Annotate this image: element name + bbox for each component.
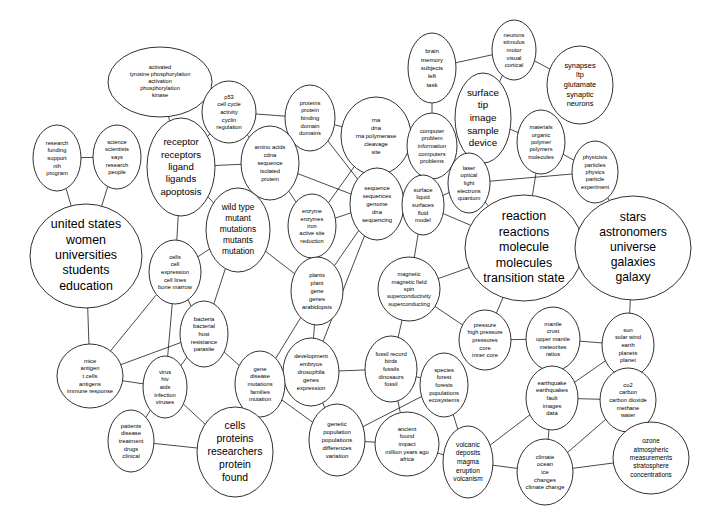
node-label-line: left — [428, 72, 436, 79]
node-label-line: molecule — [499, 240, 549, 254]
graph-node-science-scientists[interactable]: sciencescientistssaysresearchpeople — [93, 125, 141, 189]
graph-node-enzyme-enzymes-iron[interactable]: enzymeenzymesironactive sitereduction — [288, 194, 336, 258]
node-label-line: nih — [53, 162, 61, 168]
node-label-line: united states — [51, 217, 121, 231]
graph-node-mantle-crust[interactable]: mantlecrustupper mantlemeteoritesratios — [526, 307, 580, 371]
node-label-line: protein — [219, 459, 251, 470]
node-label-line: upper mantle — [536, 336, 570, 342]
graph-node-magnetic-field-spin[interactable]: magneticmagnetic fieldspinsuperconductiv… — [378, 257, 440, 321]
node-label-line: phosphorylation — [140, 86, 180, 92]
node-label-line: viruses — [156, 399, 174, 405]
graph-node-patients-disease[interactable]: patientsdiseasetreatmentdrugsclinical — [108, 410, 154, 472]
graph-edge — [335, 213, 351, 218]
node-label-line: genetic — [327, 421, 346, 427]
node-label-line: sequences — [363, 193, 392, 199]
graph-edge — [181, 357, 187, 365]
node-label-line: core — [479, 344, 490, 350]
node-label-line: arabidopsis — [302, 303, 332, 309]
node-label-line: reaction — [502, 209, 547, 223]
node-layer: activatedtyrosine phosphorylationactivat… — [30, 20, 691, 505]
graph-node-fossil-record-birds[interactable]: fossil recordbirdsfossilsdinosaursfossil — [365, 336, 417, 402]
node-label-line: galaxies — [611, 255, 656, 269]
graph-edge — [224, 352, 239, 366]
node-label-line: magma — [457, 458, 479, 466]
graph-node-sun-solar-wind[interactable]: sunsolar windearthplanetsplanet — [602, 313, 654, 377]
graph-node-surface-tip-image[interactable]: surfacetipimagesampledevice — [455, 73, 511, 163]
graph-edge — [169, 117, 170, 121]
node-label-line: crust — [547, 328, 560, 334]
graph-node-brain-memory[interactable]: brainmemorysubjectslefttask — [408, 33, 456, 103]
node-label-line: carbon — [619, 389, 637, 395]
graph-node-receptor-ligand[interactable]: receptorreceptorsligandligandsapoptosis — [147, 118, 215, 216]
node-label-line: sample — [467, 124, 499, 135]
graph-node-computer-problem[interactable]: computerprobleminformationcomputersprobl… — [407, 113, 457, 179]
graph-node-cells-cell-expression[interactable]: cellscellexpressioncell linesbone marrow — [149, 240, 201, 304]
node-label-line: disease — [121, 430, 141, 436]
node-label-line: birds — [385, 358, 398, 364]
graph-node-sequence-genome[interactable]: sequencesequencesgenomednasequencing — [350, 168, 404, 240]
node-label-line: dna — [371, 124, 382, 130]
node-label-line: cells — [225, 419, 246, 430]
node-label-line: forest — [437, 374, 452, 380]
graph-node-research-funding[interactable]: researchfundingsupportnihprogram — [33, 125, 81, 191]
node-label-line: students — [63, 264, 110, 278]
node-label-line: enzyme — [302, 208, 322, 214]
graph-edge — [532, 173, 536, 195]
graph-node-climate-ocean-ice[interactable]: climateoceanicechangesclimate change — [517, 439, 573, 505]
node-label-line: receptors — [161, 148, 201, 159]
graph-node-pressure-core[interactable]: pressurehigh pressurepressurescoreinner … — [459, 310, 511, 370]
graph-node-volcanic-magma[interactable]: volcanicdepositsmagmaeruptionvolcanism — [443, 426, 493, 498]
graph-edge — [198, 249, 210, 257]
graph-node-physicists-particles[interactable]: physicistsparticlesphysicsparticleexperi… — [572, 141, 618, 203]
graph-node-surface-liquid[interactable]: surfaceliquidsurfacesfluidmodel — [402, 175, 444, 235]
graph-node-mice-antigen[interactable]: miceantigent cellsantigensimmune respons… — [57, 344, 123, 408]
graph-node-reaction-molecule[interactable]: reactionreactionsmoleculemoleculestransi… — [465, 195, 583, 301]
graph-node-genetic-population[interactable]: geneticpopulationpopulationsdifferencesv… — [309, 404, 365, 476]
node-label-line: motor — [507, 47, 522, 53]
graph-edge — [208, 134, 210, 137]
graph-node-ozone-atmospheric[interactable]: ozoneatmosphericmeasurementsstratosphere… — [613, 422, 689, 494]
graph-node-earthquake-fault[interactable]: earthquakeearthquakesfaultimagesdata — [526, 366, 578, 430]
node-label-line: says — [111, 154, 123, 160]
node-label-line: found — [222, 472, 248, 483]
graph-node-plants-plant-gene[interactable]: plantsplantgenegenesarabidopsis — [291, 257, 343, 325]
graph-node-species-forest[interactable]: speciesforestforestspopulationsecosystem… — [420, 353, 468, 417]
graph-edge — [496, 298, 503, 314]
graph-node-ancient-found-impact[interactable]: ancientfoundimpactmillion years agoafric… — [375, 412, 439, 476]
graph-node-wild-type-mutant[interactable]: wild typemutantmutationsmutantsmutation — [206, 188, 270, 272]
graph-node-neurons-stimulus[interactable]: neuronsstimulusmotorvisualcortical — [492, 20, 536, 80]
node-label-line: cyclin — [222, 116, 237, 122]
graph-edge — [314, 325, 315, 338]
node-label-line: measurements — [630, 454, 672, 461]
node-label-line: neurons — [567, 99, 594, 108]
graph-node-gene-disease-mutations[interactable]: genediseasemutationsfamiliesmutation — [235, 351, 285, 417]
graph-node-laser-optical-light[interactable]: laseropticallightelectronsquantum — [448, 153, 490, 213]
node-label-line: planets — [619, 349, 638, 355]
graph-node-virus-hiv-aids[interactable]: virushivaidsinfectionviruses — [143, 356, 187, 418]
node-label-line: eruption — [456, 466, 480, 474]
node-label-line: drosophila — [297, 369, 325, 375]
graph-node-rna-dna-polymerase[interactable]: rnadnarna polymerasecleavagesite — [341, 97, 411, 175]
graph-edge — [575, 361, 606, 382]
node-label: sequencesequencesgenomednasequencing — [362, 185, 392, 222]
graph-node-p53-cell-cycle[interactable]: p53cell cycleactivitycyclinregulation — [202, 81, 256, 143]
node-label-line: wild type — [221, 203, 255, 213]
graph-node-bacteria-host[interactable]: bacteriabacterialhostresistanceparasite — [180, 301, 228, 367]
node-label-line: immune response — [67, 388, 113, 394]
graph-node-activated-tyrosine[interactable]: activatedtyrosine phosphorylationactivat… — [108, 47, 212, 117]
node-label: developmentembryosdrosophilagenesexpress… — [294, 353, 328, 390]
graph-node-stars-astronomers[interactable]: starsastronomersuniversegalaxiesgalaxy — [575, 196, 691, 300]
graph-node-united-states-women[interactable]: united stateswomenuniversitiesstudentsed… — [30, 204, 142, 308]
node-label-line: electrons — [457, 187, 481, 193]
graph-node-cells-proteins-researchers[interactable]: cellsproteinsresearchersproteinfound — [197, 407, 273, 497]
graph-node-materials-organic-polymer[interactable]: materialsorganicpolymerpolymersmolecules — [517, 110, 565, 174]
node-label-line: regulation — [216, 124, 241, 130]
graph-node-synapses-ltp[interactable]: synapsesltpglutamatesynapticneurons — [547, 46, 613, 124]
node-label-line: subjects — [421, 64, 443, 71]
graph-node-development-embryos[interactable]: developmentembryosdrosophilagenesexpress… — [283, 338, 339, 406]
graph-node-amino-acids-cdna[interactable]: amino acidscdnasequenceisolatedprotein — [241, 126, 299, 200]
graph-edge — [573, 463, 614, 468]
node-label-line: polymers — [529, 146, 552, 152]
node-label-line: genes — [303, 376, 319, 382]
node-label-line: mutant — [225, 213, 251, 223]
